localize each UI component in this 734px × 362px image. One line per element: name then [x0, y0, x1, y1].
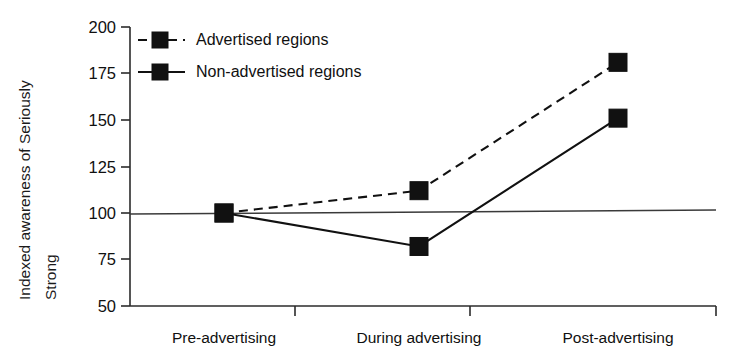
- y-tick-marks: [121, 27, 130, 306]
- chart-legend: Advertised regions Non-advertised region…: [138, 31, 361, 80]
- data-point-advertised-during: [410, 182, 428, 200]
- y-tick-label-75: 75: [98, 250, 116, 268]
- x-category-label-during-advertising: During advertising: [357, 329, 482, 346]
- y-tick-labels: 200 175 150 125 100 75 50: [88, 18, 116, 315]
- x-category-labels: Pre-advertising During advertising Post-…: [172, 329, 674, 346]
- data-point-non-advertised-post: [609, 109, 627, 127]
- y-tick-label-100: 100: [88, 204, 116, 222]
- y-tick-label-50: 50: [98, 297, 116, 315]
- data-point-non-advertised-during: [410, 237, 428, 255]
- legend-item-non-advertised-regions[interactable]: Non-advertised regions: [138, 63, 361, 80]
- y-axis-label-line2: Strong: [42, 254, 59, 300]
- legend-swatch-square-icon: [152, 32, 168, 48]
- y-tick-label-175: 175: [88, 64, 116, 82]
- y-tick-label-150: 150: [88, 111, 116, 129]
- legend-swatch-square-icon-2: [152, 64, 168, 80]
- legend-label-advertised: Advertised regions: [196, 31, 329, 48]
- y-tick-label-200: 200: [88, 18, 116, 36]
- data-point-non-advertised-pre: [215, 204, 233, 222]
- x-category-label-post-advertising: Post-advertising: [562, 329, 673, 346]
- y-axis-label: Indexed awareness of Seriously Strong: [16, 80, 59, 300]
- data-point-advertised-post: [609, 53, 627, 71]
- x-axis: [130, 306, 716, 316]
- legend-item-advertised-regions[interactable]: Advertised regions: [138, 31, 329, 48]
- legend-label-non-advertised: Non-advertised regions: [196, 63, 361, 80]
- x-category-label-pre-advertising: Pre-advertising: [172, 329, 276, 346]
- chart-figure: Indexed awareness of Seriously Strong 20…: [0, 0, 734, 362]
- line-chart: Indexed awareness of Seriously Strong 20…: [0, 0, 734, 362]
- y-axis-label-line1: Indexed awareness of Seriously: [16, 80, 33, 300]
- y-tick-label-125: 125: [88, 158, 116, 176]
